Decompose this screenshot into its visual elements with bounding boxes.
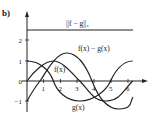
y-tick-neg1: −1 [15,98,23,106]
x-axis-arrow-icon [142,79,148,83]
y-tick-0: 0 [19,78,23,86]
f-label: f(x) [54,65,66,74]
x-tick-4: 4 [92,85,96,93]
y-axis-arrow-icon [25,11,29,17]
x-tick-5: 5 [109,85,113,93]
x-tick-labels: 1 2 3 4 5 6 [42,85,131,93]
x-tick-2: 2 [59,85,63,93]
x-tick-1: 1 [42,85,46,93]
diff-label: f(x) − g(x) [78,44,110,53]
y-tick-2: 2 [19,37,23,45]
chart: b) ||f − g||₂ f(x) − g(x) f(x) g(x) 1 2 … [0,0,155,118]
x-tick-3: 3 [75,85,79,93]
norm-label: ||f − g||₂ [66,19,89,28]
y-tick-1: 1 [19,58,23,66]
panel-label: b) [2,8,10,18]
y-tick-labels: 2 1 0 −1 [15,37,23,106]
x-tick-6: 6 [126,85,130,93]
g-label: g(x) [72,103,85,112]
